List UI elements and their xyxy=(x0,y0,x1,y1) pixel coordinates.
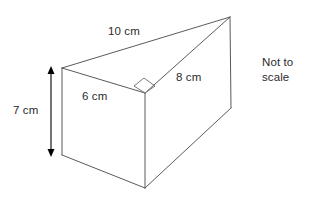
label-front-edge: 6 cm xyxy=(82,90,107,104)
arrow-head-down-icon xyxy=(48,149,55,157)
not-to-scale-note: Not to scale xyxy=(262,55,293,85)
label-slant-edge: 8 cm xyxy=(176,71,201,85)
not-to-scale-line-2: scale xyxy=(262,70,293,85)
arrow-head-up-icon xyxy=(48,66,55,74)
edge-bottom-left xyxy=(62,155,145,188)
label-top-edge: 10 cm xyxy=(108,25,140,39)
geometry-figure: 10 cm 8 cm 6 cm 7 cm Not to scale xyxy=(0,0,312,199)
label-height: 7 cm xyxy=(13,104,38,118)
edge-bottom-right xyxy=(145,108,231,188)
prism-drawing xyxy=(0,0,312,199)
edge-right-vertical xyxy=(230,17,231,108)
not-to-scale-line-1: Not to xyxy=(262,55,293,70)
edge-top-back-10cm xyxy=(62,17,230,68)
